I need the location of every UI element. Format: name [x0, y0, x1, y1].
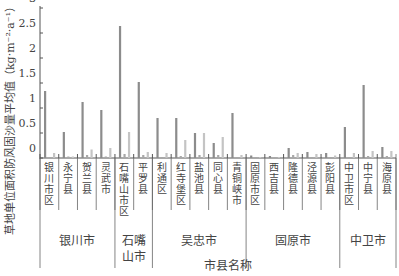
bar: [236, 157, 238, 158]
category-label: 中: [363, 161, 373, 173]
bar: [259, 157, 261, 158]
group-label: 银川市: [59, 233, 95, 248]
category-label: 德: [288, 172, 298, 184]
category-label: 海: [382, 161, 392, 173]
category-label: 县: [138, 184, 148, 195]
category-label: 红: [176, 161, 186, 173]
y-tick-label: 3: [29, 0, 36, 5]
category-label: 同: [213, 162, 223, 173]
y-tick-label: 0.5: [19, 117, 37, 130]
category-label: 县: [82, 184, 92, 195]
bar: [273, 157, 275, 158]
category-label: 卫: [344, 173, 354, 184]
category-label: 县: [194, 184, 204, 195]
bar: [292, 155, 294, 158]
bar: [306, 152, 308, 158]
bar: [184, 140, 186, 158]
bar: [142, 155, 144, 158]
bar: [72, 157, 74, 159]
bar: [330, 157, 332, 158]
category-label: 彭: [325, 161, 335, 173]
bar: [311, 157, 313, 158]
y-tick-label: 0: [29, 142, 36, 155]
bar: [367, 156, 369, 158]
category-label: 县: [363, 184, 373, 195]
bar: [100, 110, 102, 158]
category-label: 原: [382, 173, 392, 184]
category-label: 贺: [82, 162, 92, 173]
category-label: 川: [44, 173, 54, 184]
category-label: 寺: [176, 173, 186, 184]
bar: [203, 133, 205, 158]
category-label: 市: [44, 183, 54, 195]
bar: [165, 153, 167, 158]
category-label: 永: [63, 161, 73, 173]
category-label: 峡: [232, 183, 242, 195]
category-label: 阳: [325, 173, 335, 184]
category-label: 堡: [176, 183, 186, 195]
bar: [315, 154, 317, 158]
bar: [363, 85, 365, 158]
y-tick-label: 2: [29, 42, 36, 55]
category-label: 银: [44, 161, 54, 173]
bar: [44, 91, 46, 158]
bar: [381, 147, 383, 158]
category-label: 市: [250, 183, 260, 195]
category-label: 市: [119, 194, 129, 206]
y-tick-label: 1: [29, 92, 36, 105]
category-label: 区: [344, 195, 354, 206]
bar: [334, 156, 336, 159]
bar: [288, 148, 290, 158]
category-label: 池: [194, 172, 204, 184]
category-label: 平: [138, 162, 148, 173]
bar: [109, 148, 111, 158]
bar: [123, 154, 125, 158]
group-label: 山市: [122, 249, 146, 264]
category-label: 市: [101, 183, 111, 195]
category-label: 县: [63, 184, 73, 195]
bar: [175, 118, 177, 158]
bar: [222, 137, 224, 158]
category-label: 盐: [194, 161, 204, 173]
category-label: 固: [250, 162, 260, 173]
category-label: 县: [307, 184, 317, 195]
bar: [269, 156, 271, 158]
category-label: 宁: [63, 172, 73, 184]
category-label: 心: [213, 173, 223, 184]
category-label: 武: [101, 172, 111, 184]
bar: [231, 113, 233, 158]
bar: [348, 157, 350, 158]
bar: [49, 157, 51, 158]
bar: [250, 156, 252, 159]
bar: [278, 157, 280, 158]
group-label: 吴忠市: [181, 233, 217, 248]
category-label: 铜: [232, 173, 242, 184]
bar: [147, 152, 149, 158]
category-label: 县: [213, 184, 223, 195]
bar: [63, 132, 65, 158]
category-label: 宁: [363, 172, 373, 184]
bar: [217, 155, 219, 158]
category-label: 区: [44, 195, 54, 206]
bar: [180, 156, 182, 158]
category-label: 石: [119, 162, 129, 173]
category-label: 县: [382, 184, 392, 195]
bar: [325, 153, 327, 158]
group-label: 固原市: [275, 233, 311, 248]
category-label: 利: [157, 162, 167, 173]
category-label: 区: [119, 206, 129, 217]
bar: [390, 151, 392, 158]
bar: [372, 151, 374, 158]
category-label: 罗: [138, 173, 148, 184]
bar: [386, 156, 388, 158]
bar: [138, 82, 140, 158]
bar-chart: 00.511.522.53银川市区永宁县贺兰县灵武市石嘴山市区平罗县利通区红寺堡…: [0, 0, 399, 276]
x-axis-title: 市县名称: [204, 258, 252, 273]
bar: [105, 157, 107, 159]
bar: [213, 143, 215, 158]
category-label: 区: [157, 184, 167, 195]
y-axis-title: 草地单位面积防风固沙量平均值（kg·m⁻²·a⁻¹）: [3, 1, 17, 235]
category-label: 青: [232, 161, 242, 173]
bar: [53, 153, 55, 158]
category-label: 吉: [269, 173, 279, 184]
